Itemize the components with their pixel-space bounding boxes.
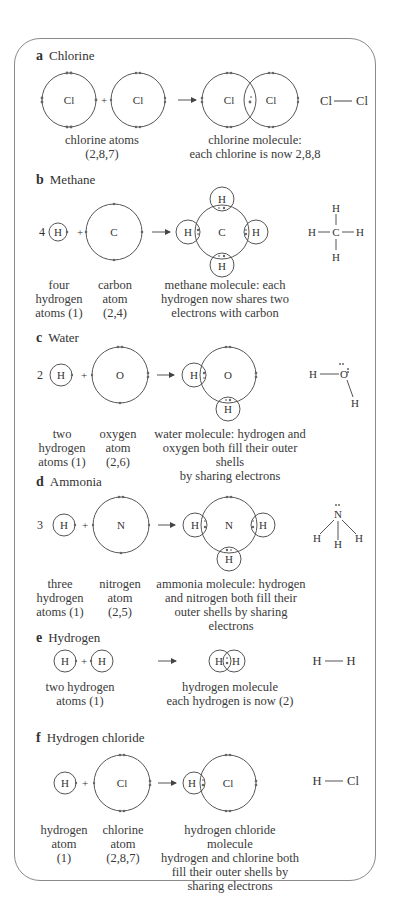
- svg-text:H: H: [54, 226, 62, 238]
- svg-text:H: H: [309, 368, 317, 380]
- svg-text:+: +: [81, 369, 87, 381]
- svg-text:H: H: [252, 226, 260, 238]
- svg-text:H: H: [61, 777, 69, 789]
- svg-text:2: 2: [37, 368, 43, 382]
- svg-text:H: H: [98, 655, 106, 667]
- svg-text:H: H: [225, 553, 233, 565]
- bonding-diagrams: Cl Cl + Cl Cl Cl Cl 4 H + C C H H H H H …: [0, 0, 393, 899]
- svg-text:+: +: [77, 226, 83, 238]
- svg-text:Cl: Cl: [356, 94, 368, 108]
- svg-text:O: O: [224, 369, 232, 381]
- svg-text:Cl: Cl: [320, 94, 332, 108]
- svg-text:4: 4: [39, 225, 45, 239]
- svg-text:C: C: [332, 226, 339, 238]
- svg-text:Cl: Cl: [133, 94, 143, 106]
- svg-text:H: H: [332, 202, 340, 214]
- svg-text:H: H: [61, 655, 69, 667]
- svg-text:H: H: [313, 532, 321, 544]
- svg-text:H: H: [57, 369, 65, 381]
- svg-text:H: H: [308, 226, 316, 238]
- svg-text:Cl: Cl: [347, 774, 359, 788]
- svg-text:H: H: [224, 403, 232, 415]
- svg-text:Cl: Cl: [266, 94, 276, 106]
- svg-text:C: C: [110, 226, 117, 238]
- svg-text:C: C: [218, 226, 225, 238]
- svg-text:H: H: [351, 397, 359, 409]
- section-c-diagram: [50, 347, 353, 421]
- svg-text:Cl: Cl: [117, 777, 127, 789]
- svg-text:H: H: [355, 532, 363, 544]
- svg-text:H: H: [356, 226, 364, 238]
- svg-text:H: H: [184, 226, 192, 238]
- section-a-diagram: [42, 73, 298, 127]
- svg-text:H: H: [312, 654, 321, 668]
- svg-text:N: N: [117, 519, 125, 531]
- svg-text:H: H: [232, 655, 240, 667]
- svg-text:O: O: [340, 368, 348, 380]
- svg-text:+: +: [81, 655, 87, 667]
- svg-text:O: O: [116, 369, 124, 381]
- svg-text:H: H: [60, 519, 68, 531]
- svg-text:+: +: [101, 94, 107, 106]
- svg-text:Cl: Cl: [224, 94, 234, 106]
- svg-text:H: H: [334, 538, 342, 550]
- svg-text:H: H: [218, 193, 226, 205]
- svg-text:3: 3: [37, 518, 43, 532]
- section-d-diagram: [53, 497, 356, 571]
- svg-text:H: H: [215, 655, 223, 667]
- svg-text:H: H: [259, 519, 267, 531]
- svg-text:H: H: [188, 777, 196, 789]
- svg-text:Cl: Cl: [223, 777, 233, 789]
- section-f-diagram: [54, 755, 343, 811]
- svg-text:H: H: [346, 654, 355, 668]
- svg-text:H: H: [191, 519, 199, 531]
- svg-text:H: H: [332, 251, 340, 263]
- svg-text:N: N: [334, 508, 342, 520]
- svg-text:+: +: [82, 519, 88, 531]
- svg-text:Cl: Cl: [64, 94, 74, 106]
- svg-text:N: N: [225, 519, 233, 531]
- svg-text:H: H: [312, 774, 321, 788]
- svg-text:+: +: [82, 777, 88, 789]
- svg-text:H: H: [190, 369, 198, 381]
- svg-text:H: H: [218, 260, 226, 272]
